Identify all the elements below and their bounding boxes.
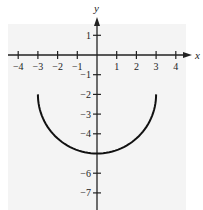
x-tick-label: 4 bbox=[173, 61, 178, 72]
y-tick-label: −7 bbox=[80, 187, 91, 198]
x-axis-label: x bbox=[194, 49, 200, 61]
y-tick-label: −2 bbox=[80, 89, 91, 100]
x-tick-label: 3 bbox=[154, 61, 159, 72]
graph-figure: −4−3−2−112341−1−2−3−4−6−7 x y bbox=[0, 0, 203, 210]
y-tick-label: −1 bbox=[80, 69, 91, 80]
y-axis-arrow-icon bbox=[94, 17, 100, 26]
y-tick-label: 1 bbox=[86, 30, 91, 41]
x-tick-label: 1 bbox=[114, 61, 119, 72]
y-tick-label: −4 bbox=[80, 128, 91, 139]
y-tick-label: −6 bbox=[80, 168, 91, 179]
y-axis-label: y bbox=[93, 2, 99, 14]
x-axis-arrow-icon bbox=[183, 52, 192, 58]
x-tick-label: −4 bbox=[13, 61, 24, 72]
x-tick-label: −2 bbox=[52, 61, 63, 72]
x-tick-label: 2 bbox=[134, 61, 139, 72]
semicircle-plot: −4−3−2−112341−1−2−3−4−6−7 x y bbox=[0, 0, 203, 210]
y-tick-label: −3 bbox=[80, 109, 91, 120]
x-tick-label: −3 bbox=[33, 61, 44, 72]
